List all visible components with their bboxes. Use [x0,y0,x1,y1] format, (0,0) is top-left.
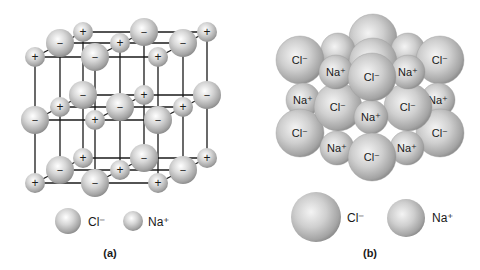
ion-label: Na⁺ [361,111,381,123]
minus-sign: − [117,101,123,113]
sodium-legend-sphere [387,199,425,237]
sodium-ion: Na⁺ [391,55,425,89]
chloride-ion: − [193,81,221,109]
chloride-ion: − [21,106,49,134]
ball-and-stick-model: +−+−+−+−+−+−+−+−+−+−+−+−+−+ Cl⁻ Na⁺ (a) [21,18,221,259]
chloride-ion: − [46,29,74,57]
minus-sign: − [57,37,63,49]
panel-a-caption: (a) [103,247,117,259]
ion-label: Cl⁻ [432,127,448,139]
lattice-ions: +−+−+−+−+−+−+−+−+−+−+−+−+−+ [21,18,221,197]
plus-sign: + [91,113,98,127]
minus-sign: − [155,114,161,126]
plus-sign: + [116,36,123,50]
sodium-ion: + [197,148,217,168]
ion-label: Cl⁻ [364,71,380,83]
sodium-legend-label: Na⁺ [432,211,453,225]
sodium-ion: Na⁺ [354,100,388,134]
legend-a: Cl⁻ Na⁺ [55,208,169,234]
plus-sign: + [203,25,210,39]
plus-sign: + [116,163,123,177]
chloride-ion: − [46,156,74,184]
plus-sign: + [56,100,63,114]
sodium-ion: + [25,173,45,193]
plus-sign: + [140,88,147,102]
space-filling-model: Cl⁻Cl⁻Na⁺Na⁺Cl⁻Cl⁻Cl⁻Cl⁻Na⁺Na⁺Na⁺Na⁺Na⁺C… [276,14,464,259]
sodium-ion: + [134,85,154,105]
packed-ions: Cl⁻Cl⁻Na⁺Na⁺Cl⁻Cl⁻Cl⁻Cl⁻Na⁺Na⁺Na⁺Na⁺Na⁺C… [276,14,464,181]
chloride-legend-sphere [291,192,341,242]
ion-label: Cl⁻ [400,101,416,113]
ion-label: Cl⁻ [292,54,308,66]
nacl-crystal-figure: +−+−+−+−+−+−+−+−+−+−+−+−+−+ Cl⁻ Na⁺ (a) … [0,0,480,270]
sodium-ion: + [73,22,93,42]
chloride-legend-label: Cl⁻ [88,215,105,229]
ion-label: Na⁺ [398,66,418,78]
sodium-ion: + [73,148,93,168]
minus-sign: − [204,89,210,101]
sodium-legend-sphere [123,211,143,231]
chloride-ion: − [169,156,197,184]
sodium-legend-label: Na⁺ [148,215,169,229]
minus-sign: − [32,114,38,126]
sodium-ion: + [50,97,70,117]
panel-b-caption: (b) [363,247,377,259]
ion-label: Na⁺ [397,142,417,154]
ion-label: Cl⁻ [432,54,448,66]
chloride-ion: − [169,29,197,57]
chloride-ion: − [130,144,158,172]
minus-sign: − [92,51,98,63]
ion-label: Na⁺ [326,66,346,78]
sodium-ion: + [25,47,45,67]
sodium-ion: + [173,97,193,117]
plus-sign: + [154,176,161,190]
ion-label: Na⁺ [327,142,347,154]
plus-sign: + [79,25,86,39]
sodium-ion: + [148,47,168,67]
chloride-ion: Cl⁻ [276,36,324,84]
chloride-legend-label: Cl⁻ [347,211,364,225]
sodium-ion: + [85,110,105,130]
minus-sign: − [141,26,147,38]
chloride-ion: − [81,169,109,197]
plus-sign: + [79,151,86,165]
chloride-ion: − [144,106,172,134]
sodium-ion: Na⁺ [319,55,353,89]
sodium-ion: + [148,173,168,193]
plus-sign: + [154,50,161,64]
sodium-ion: + [197,22,217,42]
chloride-ion: − [130,18,158,46]
sodium-ion: + [110,160,130,180]
plus-sign: + [179,100,186,114]
minus-sign: − [180,37,186,49]
plus-sign: + [31,50,38,64]
plus-sign: + [31,176,38,190]
sodium-ion: + [110,33,130,53]
ion-label: Cl⁻ [292,127,308,139]
minus-sign: − [57,164,63,176]
minus-sign: − [80,89,86,101]
chloride-ion: Cl⁻ [348,53,396,101]
chloride-ion: Cl⁻ [348,133,396,181]
chloride-ion: − [81,43,109,71]
minus-sign: − [180,164,186,176]
ion-label: Na⁺ [293,94,313,106]
chloride-legend-sphere [55,208,81,234]
minus-sign: − [141,152,147,164]
plus-sign: + [203,151,210,165]
ion-label: Cl⁻ [364,151,380,163]
legend-b: Cl⁻ Na⁺ [291,192,453,242]
chloride-ion: − [106,93,134,121]
chloride-ion: − [69,81,97,109]
minus-sign: − [92,177,98,189]
ion-label: Cl⁻ [330,101,346,113]
